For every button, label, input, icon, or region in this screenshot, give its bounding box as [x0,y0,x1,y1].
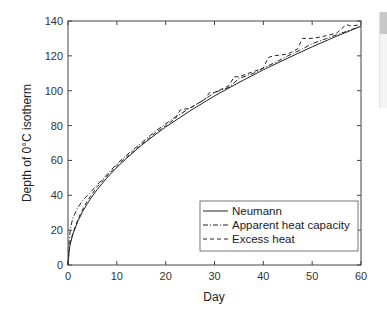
y-tick-label: 60 [51,154,63,166]
y-tick-label: 80 [51,120,63,132]
scrollbar-thumb[interactable] [380,12,387,34]
x-tick-label: 40 [257,270,269,282]
side-scrollbar[interactable] [379,12,387,108]
x-tick-label: 20 [160,270,172,282]
y-tick-label: 0 [57,259,63,271]
y-tick-label: 100 [45,85,63,97]
x-tick-labels: 0102030405060 [65,270,367,282]
legend-label-neumann: Neumann [232,205,282,217]
legend-label-excess-heat: Excess heat [232,233,295,245]
y-tick-label: 120 [45,50,63,62]
legend-label-apparent-heat-capacity: Apparent heat capacity [232,219,350,231]
x-tick-label: 50 [306,270,318,282]
y-axis-title: Depth of 0°C isotherm [20,84,34,202]
x-tick-label: 30 [208,270,220,282]
y-tick-label: 20 [51,224,63,236]
y-tick-labels: 020406080100120140 [45,15,63,271]
y-tick-label: 140 [45,15,63,27]
x-tick-label: 60 [355,270,367,282]
x-axis-title: Day [203,290,224,304]
legend: Neumann Apparent heat capacity Excess he… [200,201,358,251]
y-tick-label: 40 [51,189,63,201]
x-tick-label: 10 [111,270,123,282]
x-tick-label: 0 [65,270,71,282]
